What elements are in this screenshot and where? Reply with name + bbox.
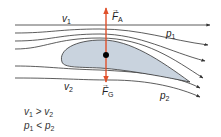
label-v1: v1: [62, 14, 71, 25]
rel1-left-sub: 1: [30, 125, 34, 132]
v1-sub: 1: [67, 18, 71, 25]
rel0-left-sub: 1: [29, 111, 33, 118]
label-p2: p2: [160, 91, 169, 102]
vector-arrow-icon: →: [112, 6, 119, 13]
fa-sub: A: [118, 16, 123, 23]
p1-sub: 1: [172, 33, 176, 40]
relation-velocity: v1 > v2: [24, 107, 53, 118]
fg-sub: G: [108, 91, 113, 98]
rel0-op: >: [36, 106, 42, 117]
vector-arrow-icon: →: [102, 81, 109, 88]
relation-pressure: p1 < p2: [24, 121, 54, 132]
p2-sub: 2: [166, 95, 170, 102]
rel0-right-sub: 2: [49, 111, 53, 118]
rel1-op: <: [36, 120, 42, 131]
label-p1: p1: [166, 29, 175, 40]
rel1-right-sub: 2: [50, 125, 54, 132]
center-point: [103, 52, 109, 58]
airfoil: [61, 40, 190, 82]
label-force-gravity: → FG: [102, 87, 114, 98]
v2-sub: 2: [69, 86, 73, 93]
label-force-lift: → FA: [112, 12, 123, 23]
label-v2: v2: [64, 82, 73, 93]
